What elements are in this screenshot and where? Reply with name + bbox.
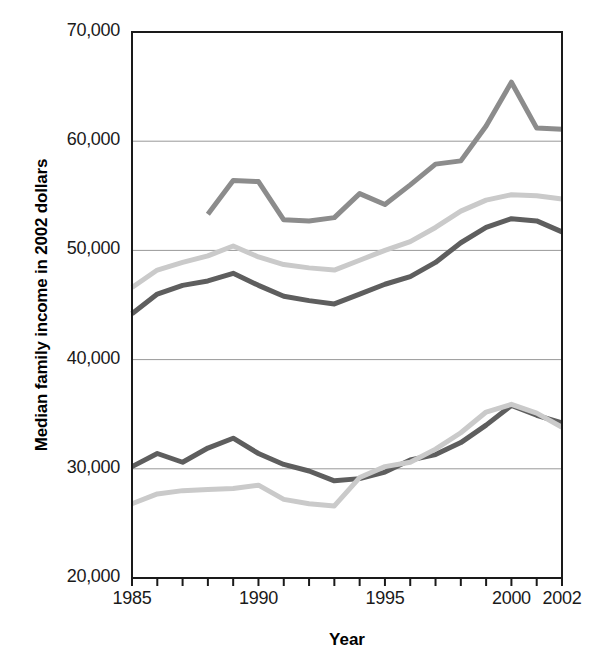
plot-background bbox=[132, 32, 562, 578]
chart-container: Median family income in 2002 dollars Yea… bbox=[0, 0, 589, 667]
plot-area bbox=[0, 0, 589, 667]
